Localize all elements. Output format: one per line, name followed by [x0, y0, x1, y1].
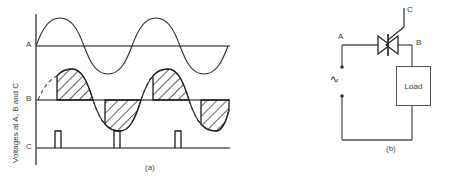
- figure-root: Voltages at A, B and C A B C: [0, 0, 457, 181]
- ac-source-symbol: ∿: [330, 74, 339, 85]
- source-terminal-dot-top: [340, 65, 344, 69]
- load-box: Load: [396, 66, 431, 106]
- panel-b-caption: (b): [386, 145, 396, 153]
- panel-b-circuit: [0, 0, 457, 181]
- terminal-label-a: A: [338, 33, 343, 41]
- terminal-label-b: B: [416, 39, 421, 47]
- gate-label-c: C: [407, 6, 413, 14]
- source-terminal-dot-bottom: [340, 94, 344, 98]
